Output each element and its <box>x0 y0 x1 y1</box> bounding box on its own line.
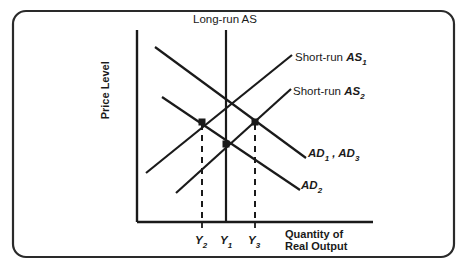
short-run-as2-label: Short-run AS2 <box>293 81 365 102</box>
x-tick-label-y1: Y1 <box>220 230 232 251</box>
ad-label-separator: , <box>329 147 338 159</box>
x-tick-y3-subscript: 3 <box>256 241 260 250</box>
ad3-symbol: AD <box>338 147 355 159</box>
x-tick-y2-symbol: Y <box>195 234 203 246</box>
x-axis-label-line2: Real Output <box>285 240 347 252</box>
x-tick-y1-symbol: Y <box>220 234 228 246</box>
x-tick-y3-symbol: Y <box>248 234 256 246</box>
figure-root: Long-run AS Price Level Short-run AS1 Sh… <box>0 0 466 269</box>
ad1-ad3-label: AD1 , AD3 <box>308 143 359 164</box>
long-run-as-label: Long-run AS <box>193 13 257 26</box>
x-tick-label-y2: Y2 <box>195 230 207 251</box>
ad2-label: AD2 <box>301 175 322 196</box>
ad2-subscript: 2 <box>318 186 322 195</box>
y-axis-label: Price Level <box>99 61 111 119</box>
curve-ad1-ad3 <box>155 47 306 158</box>
equilibrium-marker-y1 <box>223 141 230 148</box>
ad3-subscript: 3 <box>355 154 359 163</box>
ad1-symbol: AD <box>308 147 325 159</box>
short-run-as1-prefix: Short-run <box>295 51 346 63</box>
equilibrium-marker-y2 <box>199 119 206 126</box>
figure-border <box>13 11 454 257</box>
short-run-as2-subscript: 2 <box>360 92 364 101</box>
x-tick-y2-subscript: 2 <box>203 241 207 250</box>
equilibrium-marker-y3 <box>252 119 259 126</box>
as-ad-diagram-svg <box>0 0 466 269</box>
short-run-as1-subscript: 1 <box>362 58 366 67</box>
short-run-as2-symbol: AS <box>344 85 360 97</box>
x-axis-label: Quantity of Real Output <box>285 228 347 253</box>
x-tick-label-y3: Y3 <box>248 230 260 251</box>
short-run-as1-label: Short-run AS1 <box>295 47 367 68</box>
x-axis-label-line1: Quantity of <box>285 228 347 240</box>
short-run-as2-prefix: Short-run <box>293 85 344 97</box>
x-tick-y1-subscript: 1 <box>228 241 232 250</box>
short-run-as1-symbol: AS <box>346 51 362 63</box>
ad2-symbol: AD <box>301 179 318 191</box>
